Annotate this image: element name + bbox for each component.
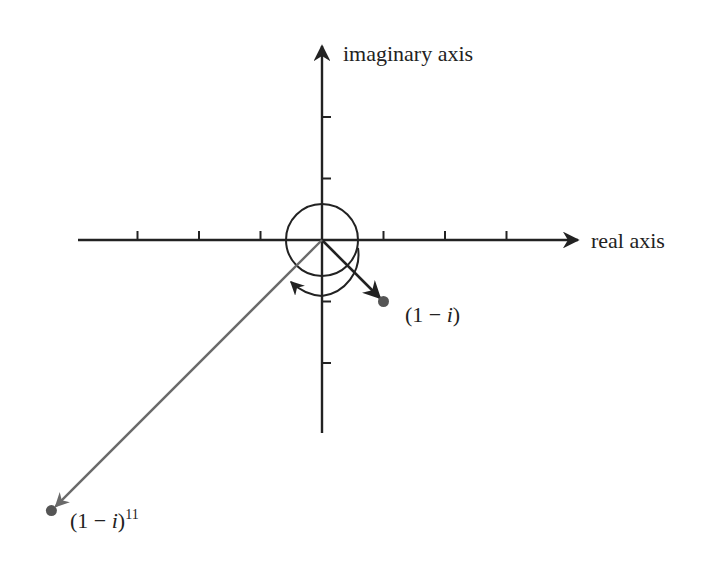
label-base: (1 − <box>70 508 112 533</box>
vector-1-minus-i <box>322 240 380 298</box>
vector-1-minus-i-pow-11 <box>56 240 322 506</box>
label-base: (1 − <box>405 302 447 327</box>
imaginary-axis-label: imaginary axis <box>343 41 473 66</box>
complex-plane-diagram: imaginary axis real axis (1 − i) (1 − i)… <box>0 0 710 562</box>
label-close: ) <box>453 302 460 327</box>
point-1-minus-i <box>378 296 389 307</box>
label-close: ) <box>118 508 125 533</box>
point-1-minus-i-label: (1 − i) <box>405 302 460 327</box>
real-axis-label: real axis <box>591 228 665 253</box>
rotation-arrow-arc <box>291 248 358 296</box>
point-1-minus-i-pow-11-label: (1 − i)11 <box>70 507 139 533</box>
label-exponent: 11 <box>125 507 138 522</box>
point-1-minus-i-pow-11 <box>46 505 57 516</box>
